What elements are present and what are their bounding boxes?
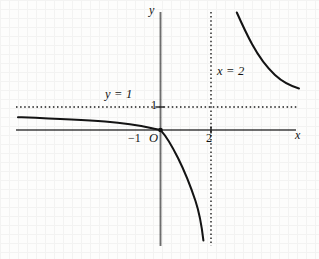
graph-figure: y x O 1 −1 2 y = 1 x = 2 [0,0,319,259]
origin-label: O [149,132,158,145]
curve-middle-branch [161,131,203,241]
graph-canvas [0,0,319,259]
y-tick-label-1: 1 [151,99,157,111]
curve-left-branch [18,117,161,130]
y-axis-label: y [149,4,154,16]
curve-right-branch [237,13,299,89]
x-tick-label-minus-1: −1 [128,132,141,144]
horizontal-asymptote-label: y = 1 [105,88,132,101]
vertical-asymptote-label: x = 2 [217,65,244,78]
x-axis-label: x [295,129,300,141]
x-tick-label-2: 2 [206,132,212,144]
